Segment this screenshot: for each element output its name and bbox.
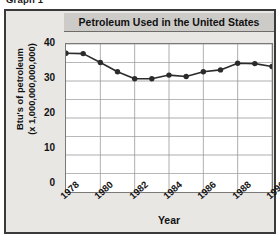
figure-frame: Petroleum Used in the United States Btu'… <box>4 9 276 234</box>
y-tick-label: 10 <box>35 143 55 153</box>
data-point-marker <box>80 51 85 56</box>
y-tick-label: 40 <box>35 38 55 48</box>
figure-caption: Graph 1 <box>6 0 43 5</box>
data-point-marker <box>201 69 206 74</box>
data-point-marker <box>66 51 69 56</box>
data-point-marker <box>218 67 223 72</box>
data-point-marker <box>115 69 120 74</box>
grid-lines <box>66 44 272 192</box>
chart-screenshot: Graph 1 Petroleum Used in the United Sta… <box>0 0 280 236</box>
y-axis-label-line1: Btu's of petroleum <box>14 14 26 164</box>
y-tick-label: 30 <box>35 73 55 83</box>
line-chart-svg <box>66 44 272 192</box>
data-point-marker <box>166 72 171 77</box>
data-point-marker <box>149 76 154 81</box>
x-tick-label: 1978 <box>58 179 81 201</box>
data-point-marker <box>183 74 188 79</box>
plot-area <box>65 43 273 193</box>
data-point-marker <box>235 61 240 66</box>
x-axis-label: Year <box>65 214 273 226</box>
y-axis-ticks: 40 30 20 10 0 <box>33 11 55 236</box>
data-point-marker <box>98 60 103 65</box>
chart-title-banner: Petroleum Used in the United States <box>64 13 274 32</box>
y-tick-label: 20 <box>35 108 55 118</box>
data-point-marker <box>252 61 257 66</box>
page-title: Petroleum Used in the United States <box>64 13 274 32</box>
data-point-marker <box>269 64 272 69</box>
y-tick-label: 0 <box>35 178 55 188</box>
data-point-marker <box>132 76 137 81</box>
